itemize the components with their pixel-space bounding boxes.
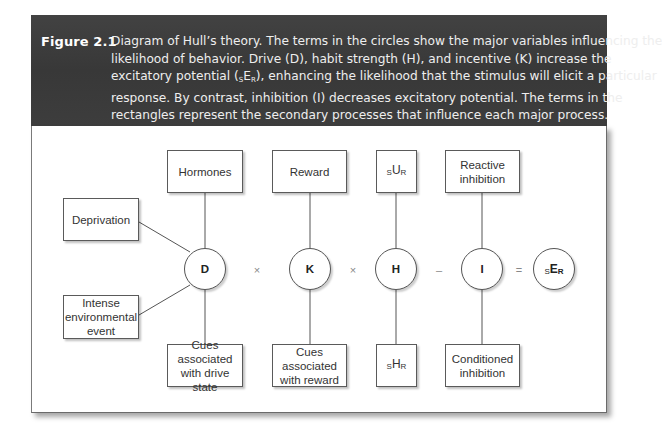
box-cues-reward-line-2: associated	[282, 359, 337, 373]
box-intense-event-line-2: environmental	[65, 310, 137, 324]
box-cues-reward: Cues associated with reward	[272, 344, 347, 387]
circle-incentive-label: K	[306, 263, 314, 275]
box-deprivation: Deprivation	[63, 198, 139, 241]
box-intense-event-line-3: event	[87, 324, 115, 338]
box-sur-label: SUR	[387, 163, 407, 180]
ser-sub-r: R	[558, 267, 564, 276]
sur-sub-r: R	[401, 168, 407, 177]
circle-incentive: K	[289, 248, 331, 290]
box-intense-event: Intense environmental event	[63, 295, 139, 339]
sur-main: U	[392, 163, 401, 177]
box-conditioned-inhibition-line-1: Conditioned	[452, 352, 513, 366]
box-reactive-inhibition-line-1: Reactive	[460, 158, 505, 172]
circle-excitatory-potential-label: SER	[544, 262, 563, 276]
box-deprivation-label: Deprivation	[72, 213, 130, 227]
box-conditioned-inhibition-line-2: inhibition	[460, 366, 505, 380]
operator-times-2: ×	[350, 264, 356, 276]
circle-habit: H	[375, 248, 417, 290]
shr-sub-r: R	[401, 362, 407, 371]
circle-drive: D	[184, 248, 226, 290]
box-cues-reward-line-3: with reward	[280, 373, 339, 387]
box-hormones: Hormones	[167, 150, 243, 193]
circle-inhibition: I	[461, 248, 503, 290]
operator-minus: –	[436, 264, 442, 276]
box-cues-drive-line-1: Cues	[192, 338, 219, 352]
box-reactive-inhibition-line-2: inhibition	[460, 172, 505, 186]
box-reward: Reward	[272, 150, 347, 193]
box-cues-reward-line-1: Cues	[296, 345, 323, 359]
ser-main: E	[550, 262, 558, 276]
box-hormones-label: Hormones	[178, 165, 231, 179]
box-intense-event-line-1: Intense	[82, 296, 120, 310]
circle-excitatory-potential: SER	[533, 248, 575, 290]
shr-main: H	[392, 357, 401, 371]
box-reward-label: Reward	[290, 165, 330, 179]
circle-drive-label: D	[201, 263, 209, 275]
box-shr: SHR	[376, 344, 417, 387]
box-cues-drive-line-2: associated	[178, 352, 233, 366]
box-cues-drive: Cues associated with drive state	[167, 344, 243, 387]
circle-habit-label: H	[392, 263, 400, 275]
circle-inhibition-label: I	[480, 263, 483, 275]
box-reactive-inhibition: Reactive inhibition	[445, 150, 520, 193]
operator-equals: =	[516, 264, 522, 276]
operator-times-1: ×	[254, 264, 260, 276]
box-conditioned-inhibition: Conditioned inhibition	[445, 344, 520, 387]
box-sur: SUR	[376, 150, 417, 193]
box-shr-label: SHR	[387, 357, 407, 374]
box-cues-drive-line-3: with drive state	[168, 366, 242, 394]
